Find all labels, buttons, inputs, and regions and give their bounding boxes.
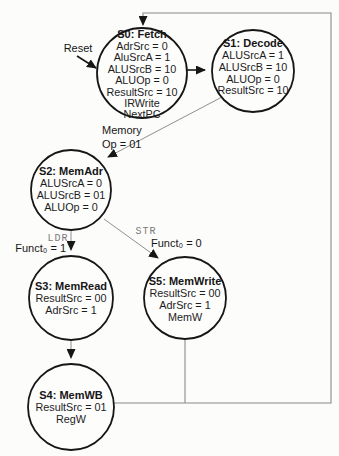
state-s3-line-0: ResultSrc = 00 bbox=[35, 292, 106, 304]
state-s1-line-0: ALUSrcA = 1 bbox=[222, 49, 284, 61]
state-s1-line-3: ResultSrc = 10 bbox=[217, 84, 288, 96]
fsm-diagram-page: Reset Memory Op = 01 LDR Funct₀ = 1 STR … bbox=[0, 0, 339, 456]
state-s4-line-0: ResultSrc = 01 bbox=[35, 401, 106, 413]
state-s0-title: S0: Fetch bbox=[117, 28, 167, 40]
state-s5-line-1: AdrSrc = 1 bbox=[159, 299, 210, 311]
state-s3-title: S3: MemRead bbox=[35, 280, 107, 292]
reset-label: Reset bbox=[64, 42, 93, 54]
reset-arrow bbox=[77, 56, 96, 68]
state-s3-memread: S3: MemRead ResultSrc = 00 AdrSrc = 1 bbox=[29, 256, 113, 340]
memory-op-label-line2: Op = 01 bbox=[102, 138, 141, 150]
state-s0-line-0: AdrSrc = 0 bbox=[116, 40, 167, 52]
memory-op-label-line1: Memory bbox=[102, 124, 142, 136]
state-s2-line-2: ALUOp = 0 bbox=[44, 201, 98, 213]
state-s1-line-1: ALUSrcB = 10 bbox=[219, 61, 288, 73]
state-s2-title: S2: MemAdr bbox=[39, 165, 104, 177]
state-s5-line-2: MemW bbox=[168, 311, 203, 323]
state-s5-memwrite: S5: MemWrite ResultSrc = 00 AdrSrc = 1 M… bbox=[144, 257, 226, 339]
state-s0-line-4: ResultSrc = 10 bbox=[106, 86, 177, 98]
state-s4-title: S4: MemWB bbox=[39, 389, 103, 401]
state-s2-line-0: ALUSrcA = 0 bbox=[40, 177, 102, 189]
ldr-condition-label: Funct₀ = 1 bbox=[15, 242, 66, 254]
state-s1-title: S1: Decode bbox=[223, 37, 283, 49]
state-s0-fetch: S0: Fetch AdrSrc = 0 AluSrcA = 1 ALUSrcB… bbox=[97, 28, 187, 120]
state-s0-line-3: ALUOp = 0 bbox=[115, 74, 169, 86]
state-s4-line-1: RegW bbox=[56, 413, 87, 425]
state-s0-line-6: NextPC bbox=[123, 108, 160, 120]
state-s5-title: S5: MemWrite bbox=[149, 275, 222, 287]
state-s5-line-0: ResultSrc = 00 bbox=[149, 287, 220, 299]
fsm-state-diagram: Reset Memory Op = 01 LDR Funct₀ = 1 STR … bbox=[0, 0, 339, 456]
state-s1-line-2: ALUOp = 0 bbox=[226, 73, 280, 85]
state-s3-line-1: AdrSrc = 1 bbox=[45, 304, 96, 316]
state-s4-memwb: S4: MemWB ResultSrc = 01 RegW bbox=[28, 364, 114, 450]
str-mnemonic-label: STR bbox=[135, 226, 156, 237]
state-s0-line-2: ALUSrcB = 10 bbox=[108, 63, 177, 75]
state-s1-decode: S1: Decode ALUSrcA = 1 ALUSrcB = 10 ALUO… bbox=[212, 30, 294, 112]
state-s2-line-1: ALUSrcB = 01 bbox=[37, 189, 106, 201]
str-condition-label: Funct₀ = 0 bbox=[151, 237, 202, 249]
state-s0-line-1: AluSrcA = 1 bbox=[114, 51, 171, 63]
memadr-to-memwrite-arrow bbox=[104, 219, 158, 258]
state-s2-memadr: S2: MemAdr ALUSrcA = 0 ALUSrcB = 01 ALUO… bbox=[31, 150, 111, 230]
